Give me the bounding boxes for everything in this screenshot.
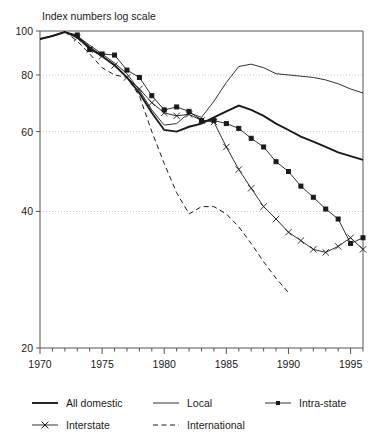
x-tick-label: 1995 (339, 358, 363, 370)
x-tick-label: 1990 (277, 358, 301, 370)
legend-item: Interstate (32, 419, 110, 431)
legend-square-marker (276, 401, 280, 405)
data-point-marker (248, 185, 254, 191)
y-tick-label: 60 (21, 126, 33, 138)
data-point-marker (323, 249, 329, 255)
data-point-marker (324, 207, 328, 211)
x-tick-label: 1980 (153, 358, 177, 370)
data-point-marker (349, 241, 353, 245)
data-point-marker (336, 217, 340, 221)
data-point-marker (223, 144, 229, 150)
chart-figure: Index numbers log scale20406080100197019… (0, 0, 380, 443)
y-tick-label: 100 (15, 25, 33, 37)
data-point-marker (286, 170, 290, 174)
data-point-marker (175, 105, 179, 109)
data-point-marker (237, 126, 241, 130)
legend-label: Interstate (66, 419, 110, 431)
legend-label: All domestic (66, 397, 123, 409)
data-point-marker (361, 236, 365, 240)
data-point-marker (335, 243, 341, 249)
data-point-marker (125, 68, 129, 72)
data-point-marker (149, 99, 155, 105)
data-point-marker (236, 166, 242, 172)
y-axis: 20406080100 (15, 25, 40, 354)
y-tick-label: 40 (21, 205, 33, 217)
x-tick-label: 1970 (28, 358, 52, 370)
series-group (40, 32, 366, 293)
legend-item: Local (153, 397, 212, 409)
data-point-marker (273, 216, 279, 222)
data-point-marker (347, 235, 353, 241)
data-point-marker (150, 94, 154, 98)
legend-label: Local (187, 397, 212, 409)
data-point-marker (260, 203, 266, 209)
chart-legend: All domesticLocalIntra-stateInterstateIn… (32, 397, 346, 431)
legend-label: Intra-state (299, 397, 346, 409)
line-chart: Index numbers log scale20406080100197019… (0, 0, 380, 443)
legend-item: All domestic (32, 397, 123, 409)
plot-frame (40, 31, 363, 348)
chart-title: Index numbers log scale (42, 10, 156, 22)
x-axis: 197019751980198519901995 (28, 348, 363, 370)
data-point-marker (137, 75, 141, 79)
y-tick-label: 80 (21, 69, 33, 81)
data-point-marker (274, 160, 278, 164)
series-line-international (40, 32, 288, 293)
x-tick-label: 1985 (215, 358, 239, 370)
data-point-marker (298, 237, 304, 243)
x-tick-label: 1975 (90, 358, 114, 370)
legend-label: International (187, 419, 245, 431)
legend-item: Intra-state (265, 397, 346, 409)
data-point-marker (262, 145, 266, 149)
legend-item: International (153, 419, 245, 431)
data-point-marker (299, 184, 303, 188)
data-point-marker (310, 246, 316, 252)
data-point-marker (311, 195, 315, 199)
data-point-marker (285, 229, 291, 235)
y-tick-label: 20 (21, 342, 33, 354)
data-point-marker (249, 136, 253, 140)
data-point-marker (113, 53, 117, 57)
data-point-marker (224, 122, 228, 126)
